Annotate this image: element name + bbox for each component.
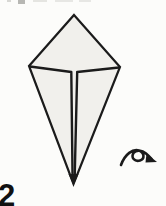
origami-diagram-page: 2	[0, 0, 166, 206]
step-number: 2	[0, 180, 15, 206]
turn-over-arrow-icon	[121, 150, 157, 165]
origami-kite-diagram	[0, 0, 166, 206]
bottom-tip-ink	[69, 174, 79, 186]
arrowhead	[146, 154, 158, 163]
